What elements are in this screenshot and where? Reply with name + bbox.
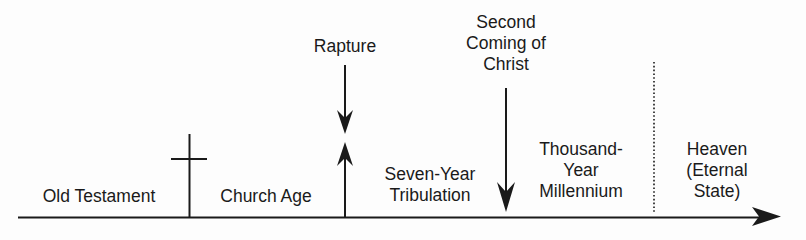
end-times-timeline-diagram: Old Testament Church Age Seven-Year Trib… (0, 0, 806, 240)
period-label-heaven: Heaven (Eternal State) (664, 139, 770, 202)
rapture-down-arrow-icon (337, 65, 353, 134)
period-label-old-testament: Old Testament (24, 186, 174, 207)
timeline-axis (18, 207, 781, 226)
event-label-rapture: Rapture (295, 36, 395, 57)
period-label-church-age: Church Age (200, 186, 332, 207)
period-label-millennium: Thousand- Year Millennium (518, 139, 644, 202)
event-label-second-coming: Second Coming of Christ (446, 12, 566, 75)
period-label-tribulation: Seven-Year Tribulation (360, 164, 500, 206)
rapture-up-arrow-icon (337, 142, 353, 218)
